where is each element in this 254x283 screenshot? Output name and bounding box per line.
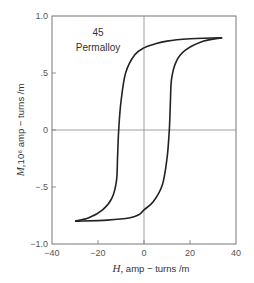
x-tick-label: 40 <box>231 248 241 258</box>
annotation-material: Permalloy <box>76 42 120 53</box>
x-axis-ticks: −40−2002040 <box>44 240 241 258</box>
hysteresis-ascending-branch <box>75 38 222 222</box>
y-tick-label: −1.0 <box>30 239 48 249</box>
x-tick-label: −40 <box>44 248 59 258</box>
hysteresis-chart: −40−2002040 1.0.50−.5−1.0 45 Permalloy H… <box>0 0 254 283</box>
x-axis-title: H, amp − turns /m <box>112 262 190 274</box>
x-tick-label: 0 <box>141 248 146 258</box>
annotation-number: 45 <box>92 27 104 38</box>
hysteresis-descending-branch <box>75 38 222 222</box>
x-tick-label: 20 <box>185 248 195 258</box>
y-axis-title: M,10⁶ amp − turns /m <box>14 84 26 178</box>
y-tick-label: −.5 <box>35 182 48 192</box>
y-tick-label: .5 <box>40 68 48 78</box>
y-tick-label: 1.0 <box>35 11 48 21</box>
y-tick-label: 0 <box>43 125 48 135</box>
x-tick-label: −20 <box>90 248 105 258</box>
